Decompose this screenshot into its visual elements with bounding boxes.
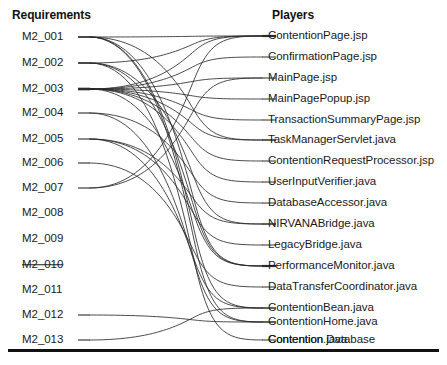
trace-edge <box>90 89 262 182</box>
trace-edge <box>90 113 262 203</box>
trace-edge <box>90 36 262 188</box>
trace-edge <box>90 139 262 224</box>
trace-edge <box>90 36 262 37</box>
trace-edge <box>90 139 262 245</box>
requirement-label: M2_006 <box>22 157 63 169</box>
trace-edge <box>90 63 262 266</box>
column-header-requirements: Requirements <box>12 8 91 22</box>
requirement-label: M2_010 <box>22 259 63 271</box>
requirement-label: M2_004 <box>22 107 63 119</box>
requirement-label: M2_012 <box>22 309 63 321</box>
trace-edge <box>90 37 262 322</box>
player-label: MainPagePopup.jsp <box>268 93 370 105</box>
requirement-label: M2_002 <box>22 57 63 69</box>
player-label: ContentionRequestProcessor.jsp <box>268 155 434 167</box>
requirement-label: M2_007 <box>22 182 63 194</box>
trace-edge <box>90 308 262 340</box>
player-label: ContentionBean.java <box>268 302 374 314</box>
trace-edge <box>90 37 262 140</box>
trace-edge <box>90 89 262 266</box>
trace-edge <box>90 37 262 308</box>
requirement-label: M2_008 <box>22 207 63 219</box>
requirement-label: M2_003 <box>22 83 63 95</box>
trace-edge <box>90 89 262 161</box>
edge-paths <box>90 36 262 340</box>
trace-edge <box>90 63 262 340</box>
requirement-label: M2_013 <box>22 334 63 346</box>
trace-edge <box>90 78 262 89</box>
trace-edge <box>90 113 262 322</box>
player-label: TaskManagerServlet.java <box>268 134 396 146</box>
player-label: PerformanceMonitor.java <box>268 260 395 272</box>
trace-edge <box>90 89 262 140</box>
player-label: DataTransferCoordinator.java <box>268 281 417 293</box>
requirement-label: M2_005 <box>22 133 63 145</box>
player-label: ContentionHome.java <box>268 316 378 328</box>
player-label: UserInputVerifier.java <box>268 176 376 188</box>
trace-edge <box>90 89 262 120</box>
column-header-players: Players <box>272 8 314 22</box>
trace-edge <box>90 315 262 322</box>
trace-edge <box>90 36 262 89</box>
trace-edge <box>90 139 262 308</box>
bottom-divider-rule <box>8 349 439 352</box>
player-label: TransactionSummaryPage.jsp <box>268 114 420 126</box>
player-label: NIRVANABridge.java <box>268 218 375 230</box>
edge-layer <box>0 0 447 365</box>
trace-edge <box>90 57 262 89</box>
player-label: ConfirmationPage.jsp <box>268 51 377 63</box>
trace-edge <box>90 163 262 287</box>
requirement-label: M2_001 <box>22 31 63 43</box>
player-label: Contention Database <box>268 334 375 346</box>
player-label: ContentionPage.jsp <box>268 30 367 42</box>
left-node-stubs <box>78 37 90 340</box>
requirement-label: M2_011 <box>22 284 62 296</box>
player-label: DatabaseAccessor.java <box>268 197 387 209</box>
trace-edge <box>90 36 262 63</box>
trace-edge <box>90 37 262 266</box>
traceability-diagram: Requirements Players M2_001M2_002M2_003M… <box>0 0 447 365</box>
requirement-label: M2_009 <box>22 233 63 245</box>
trace-edge <box>90 78 262 188</box>
trace-edge <box>90 63 262 224</box>
player-label: LegacyBridge.java <box>268 239 362 251</box>
player-label: MainPage.jsp <box>268 72 337 84</box>
trace-edge <box>90 89 262 99</box>
